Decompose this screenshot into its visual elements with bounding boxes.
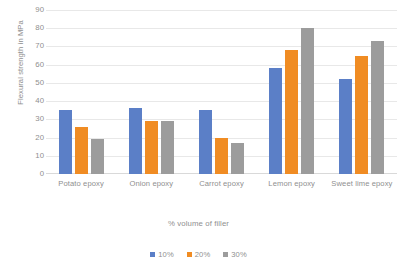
legend-item[interactable]: 10% [150, 250, 174, 259]
x-axis-label: Potato epoxy [46, 178, 116, 189]
y-axis-title: Flexural strength in MPa [16, 0, 25, 143]
legend-label: 20% [195, 250, 211, 259]
legend-label: 30% [231, 250, 247, 259]
legend-item[interactable]: 20% [187, 250, 211, 259]
y-axis-tick-90: 90 [35, 6, 44, 14]
y-axis-tick-0: 0 [40, 170, 44, 178]
bar [269, 68, 282, 174]
bar [355, 56, 368, 174]
x-axis-title: % volume of filler [0, 219, 397, 228]
x-axis-label: Sweet lime epoxy [327, 178, 397, 189]
y-axis-tick-30: 30 [35, 115, 44, 123]
bar [161, 121, 174, 174]
bar-chart: Flexural strength in MPa 908070605040302… [0, 0, 397, 268]
y-axis-tick-50: 50 [35, 79, 44, 87]
x-axis-label: Lemon epoxy [257, 178, 327, 189]
y-axis-tick-20: 20 [35, 134, 44, 142]
bar [129, 108, 142, 174]
y-axis-tick-40: 40 [35, 97, 44, 105]
legend-label: 10% [158, 250, 174, 259]
plot-area [46, 10, 397, 174]
y-axis-tick-70: 70 [35, 42, 44, 50]
bar-group [327, 10, 397, 174]
bar [75, 127, 88, 174]
x-axis-label: Carrot epoxy [186, 178, 256, 189]
bar [339, 79, 352, 174]
bar [301, 28, 314, 174]
bar [145, 121, 158, 174]
chart-legend: 10%20%30% [0, 250, 397, 259]
bar-group [46, 10, 116, 174]
legend-swatch-icon [150, 252, 155, 257]
bar [91, 139, 104, 174]
bar-group [186, 10, 256, 174]
bar [371, 41, 384, 174]
legend-swatch-icon [187, 252, 192, 257]
bar [215, 138, 228, 174]
y-axis-tick-80: 80 [35, 24, 44, 32]
bar [231, 143, 244, 174]
y-axis-tick-60: 60 [35, 61, 44, 69]
legend-swatch-icon [223, 252, 228, 257]
bar-group [257, 10, 327, 174]
bar [59, 110, 72, 174]
legend-item[interactable]: 30% [223, 250, 247, 259]
bar [199, 110, 212, 174]
bar-group [116, 10, 186, 174]
x-axis-label: Onion epoxy [116, 178, 186, 189]
bar [285, 50, 298, 174]
x-axis-category-labels: Potato epoxyOnion epoxyCarrot epoxyLemon… [46, 178, 397, 214]
y-axis-tick-10: 10 [35, 152, 44, 160]
